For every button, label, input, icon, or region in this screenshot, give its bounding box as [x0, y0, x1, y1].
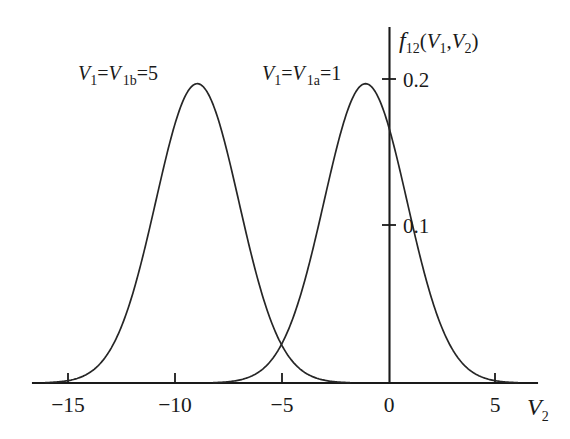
svg-text:V1=V1b=5: V1=V1b=5: [78, 62, 158, 88]
svg-text:V2: V2: [527, 394, 549, 424]
curve-label-v1a: V1=V1a=1: [262, 62, 341, 88]
x-tick-label-minus15: −15: [51, 393, 85, 417]
y-axis-title-v2-sub: 2: [465, 41, 472, 56]
x-tick-label-0: 0: [384, 393, 395, 417]
y-axis-title-paren-close: ): [472, 29, 479, 53]
curve-label-v1b: V1=V1b=5: [78, 62, 158, 88]
chart-figure: −15 −10 −5 0 5 0.2 0.1 f12(V1,V2) V2 V1=…: [0, 0, 570, 439]
y-axis-title-paren-open: (: [420, 29, 427, 53]
curve-label-v1a-v2: V: [293, 62, 308, 84]
y-axis-title-v1-sub: 1: [440, 41, 447, 56]
curve-label-v1b-sub2: 1b: [123, 73, 137, 88]
svg-text:V1=V1a=1: V1=V1a=1: [262, 62, 341, 88]
svg-text:f12(V1,V2): f12(V1,V2): [399, 27, 479, 56]
curve-label-v1a-sub2: 1a: [307, 73, 321, 88]
curve-label-v1b-eq2: =5: [137, 62, 158, 84]
curve-label-v1a-sub1: 1: [274, 73, 281, 88]
gaussian-density-plot: −15 −10 −5 0 5 0.2 0.1 f12(V1,V2) V2 V1=…: [0, 0, 570, 439]
curve-label-v1a-eq2: =1: [320, 62, 341, 84]
x-tick-label-5: 5: [490, 393, 501, 417]
curve-label-v1b-eq1: =: [97, 62, 108, 84]
y-axis-title-f-sub: 12: [406, 41, 420, 56]
x-axis-title-v-sub: 2: [542, 409, 549, 424]
curve-v1b-5: [45, 84, 349, 383]
x-tick-label-minus5: −5: [271, 393, 294, 417]
curve-v1a-1: [213, 84, 517, 383]
curve-label-v1a-eq1: =: [281, 62, 292, 84]
y-tick-label-0-2: 0.2: [403, 68, 429, 92]
y-tick-label-0-1: 0.1: [403, 214, 429, 238]
y-axis-title: f12(V1,V2): [399, 27, 479, 56]
curve-label-v1b-sub1: 1: [90, 73, 97, 88]
curve-label-v1b-v2: V: [109, 62, 124, 84]
x-tick-label-minus10: −10: [158, 393, 192, 417]
x-axis-title: V2: [527, 394, 549, 424]
